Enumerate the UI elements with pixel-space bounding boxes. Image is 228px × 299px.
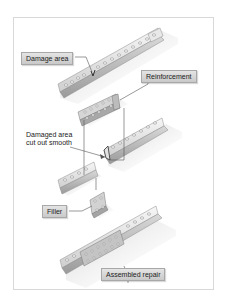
cut-stringer-left [58, 162, 102, 196]
damaged-area-cut-line1: Damaged area [26, 131, 72, 139]
repair-illustration [0, 0, 228, 299]
damage-area-label: Damage area [21, 52, 73, 65]
filler-piece [90, 192, 114, 218]
damaged-stringer [58, 28, 178, 104]
filler-label: Filler [42, 205, 67, 218]
damaged-area-cut-line2: cut out smooth [26, 139, 72, 147]
damaged-area-cut-label: Damaged area cut out smooth [26, 131, 72, 147]
reinforcement-label: Reinforcement [141, 70, 197, 83]
cut-stringer-right [104, 118, 182, 172]
assembled-repair-label: Assembled repair [101, 268, 165, 281]
